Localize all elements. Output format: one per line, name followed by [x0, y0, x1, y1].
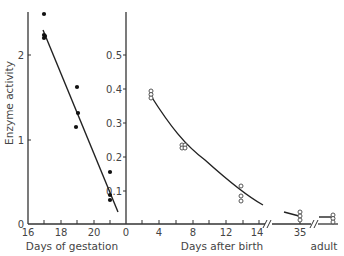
svg-text:0.4: 0.4 — [106, 84, 122, 95]
svg-text:16: 16 — [22, 227, 35, 238]
day35-fit-segment — [284, 212, 299, 216]
right-x-ticks: 4 8 12 14 35 — [142, 220, 306, 238]
axis-break-2 — [310, 220, 318, 228]
svg-text:8: 8 — [190, 227, 196, 238]
svg-text:2: 2 — [18, 50, 24, 61]
svg-text:0: 0 — [123, 227, 129, 238]
postnatal-data-points — [149, 89, 335, 224]
svg-text:14: 14 — [251, 227, 264, 238]
y-axis-title: Enzyme activity — [3, 61, 15, 145]
x-label-adult: adult — [311, 240, 338, 252]
x-axis-title-gestation: Days of gestation — [26, 240, 118, 252]
enzyme-activity-chart: 2 1 0 16 18 20 0 0.5 0.4 0.3 0.2 0.1 — [0, 0, 344, 256]
svg-text:35: 35 — [294, 227, 307, 238]
left-x-ticks: 16 18 20 0 — [22, 220, 130, 238]
svg-text:18: 18 — [55, 227, 68, 238]
svg-text:12: 12 — [220, 227, 233, 238]
left-y-ticks: 2 1 0 — [18, 50, 31, 230]
svg-text:0.3: 0.3 — [106, 118, 122, 129]
svg-text:1: 1 — [18, 135, 24, 146]
svg-text:0.2: 0.2 — [106, 152, 122, 163]
postnatal-fit-curve — [151, 96, 263, 205]
right-y-ticks: 0.5 0.4 0.3 0.2 0.1 — [106, 50, 126, 197]
svg-text:4: 4 — [156, 227, 162, 238]
svg-text:0.5: 0.5 — [106, 50, 122, 61]
svg-text:20: 20 — [88, 227, 101, 238]
x-axis-title-postnatal: Days after birth — [181, 240, 263, 252]
